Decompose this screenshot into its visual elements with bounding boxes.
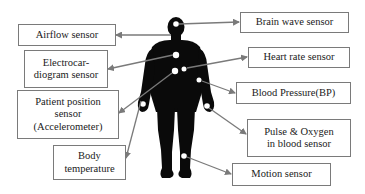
label-motion: Motion sensor (251, 168, 311, 181)
label-box-pulseox: Pulse & Oxygen in blood sensor (247, 119, 351, 157)
label-box-brainwave: Brain wave sensor (240, 12, 349, 33)
label-bp: Blood Pressure(BP) (252, 87, 336, 100)
label-box-heartrate: Heart rate sensor (248, 47, 350, 68)
label-box-airflow: Airflow sensor (18, 24, 116, 46)
human-silhouette-icon (138, 17, 214, 178)
label-airflow: Airflow sensor (36, 29, 99, 42)
label-box-position: Patient position sensor (Accelerometer) (17, 90, 119, 139)
label-ecg: Electrocar- diogram sensor (34, 57, 98, 82)
sensor-dot-arm (197, 78, 202, 83)
sensor-dot-chest (172, 68, 178, 74)
sensor-dot-upper-chest (173, 52, 179, 58)
label-box-ecg: Electrocar- diogram sensor (24, 50, 108, 88)
arrow-motion (187, 157, 231, 174)
label-temperature: Body temperature (64, 150, 114, 175)
arrow-pulseox (209, 108, 246, 134)
arrow-temperature (126, 101, 141, 158)
label-box-temperature: Body temperature (53, 145, 126, 180)
label-pulseox: Pulse & Oxygen in blood sensor (264, 126, 333, 151)
label-heartrate: Heart rate sensor (263, 51, 334, 64)
arrow-brainwave (179, 22, 239, 24)
label-position: Patient position sensor (Accelerometer) (34, 96, 103, 134)
body-sensor-diagram: Airflow sensor Electrocar- diogram senso… (0, 0, 365, 194)
sensor-dot-heart (182, 67, 187, 72)
sensor-dot-head (173, 21, 179, 27)
label-box-bp: Blood Pressure(BP) (236, 82, 351, 104)
sensor-dot-right-wrist (204, 103, 210, 109)
label-box-motion: Motion sensor (232, 163, 331, 186)
sensor-dot-leg (181, 153, 187, 159)
label-brainwave: Brain wave sensor (256, 16, 334, 29)
